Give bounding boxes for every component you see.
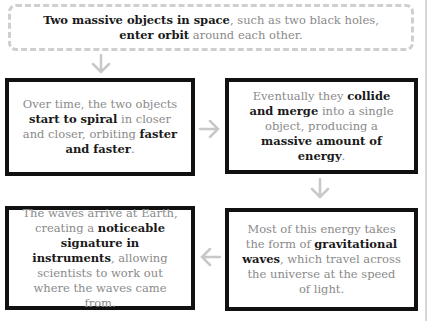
arrow-right-icon (199, 118, 221, 140)
intro-text-2: around each other. (189, 28, 303, 42)
step-1-text: Over time, the two objects start to spir… (21, 97, 179, 157)
intro-bold-1: Two massive objects in space (43, 13, 230, 27)
arrow-down-icon (309, 178, 331, 200)
intro-box: Two massive objects in space, such as tw… (8, 4, 414, 51)
step-4-box: The waves arrive at Earth, creating a no… (5, 206, 195, 310)
step-2-text-3: . (342, 149, 346, 163)
step-1-text-1: Over time, the two objects (23, 97, 177, 111)
step-2-text-1: Eventually they (253, 89, 347, 103)
intro-bold-2: enter orbit (119, 28, 189, 42)
step-4-text: The waves arrive at Earth, creating a no… (21, 206, 179, 311)
intro-text-1: , such as two black holes, (230, 13, 379, 27)
step-2-text: Eventually they collide and merge into a… (241, 89, 402, 164)
intro-text: Two massive objects in space, such as tw… (31, 13, 391, 43)
step-2-bold-2: massive amount of energy (261, 134, 382, 163)
step-3-text: Most of this energy takes the form of gr… (241, 222, 402, 297)
arrow-left-icon (199, 246, 221, 268)
step-2-box: Eventually they collide and merge into a… (225, 78, 418, 174)
step-1-bold-1: start to spiral (29, 112, 117, 126)
step-3-box: Most of this energy takes the form of gr… (225, 208, 418, 311)
arrow-down-icon (90, 54, 112, 74)
step-1-text-3: . (131, 142, 135, 156)
step-1-box: Over time, the two objects start to spir… (5, 78, 195, 176)
page-edge-divider (425, 0, 427, 321)
